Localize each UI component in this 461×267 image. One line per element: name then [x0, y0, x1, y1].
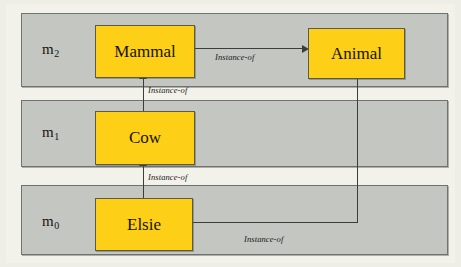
level-label-m1-text: m — [42, 124, 54, 140]
edge-line-elsie-to-animal-vertical — [357, 79, 358, 223]
level-label-m0-subscript: 0 — [54, 220, 59, 231]
level-label-m1: m1 — [42, 124, 59, 141]
edge-label-cow-to-mammal: Instance-of — [148, 85, 187, 95]
diagram-canvas: m2 m1 m0 Instance-of Instance-of Instanc… — [0, 0, 461, 267]
edge-label-elsie-to-cow: Instance-of — [148, 172, 187, 182]
edge-line-cow-to-mammal — [143, 78, 144, 112]
node-animal-label: Animal — [331, 44, 382, 64]
node-mammal-label: Mammal — [114, 42, 175, 62]
level-label-m1-subscript: 1 — [54, 131, 59, 142]
edge-line-mammal-to-animal — [195, 48, 305, 49]
node-mammal[interactable]: Mammal — [95, 25, 195, 78]
node-elsie[interactable]: Elsie — [95, 198, 193, 251]
node-animal[interactable]: Animal — [308, 28, 405, 79]
level-band-m1 — [21, 100, 448, 167]
level-label-m0-text: m — [42, 213, 54, 229]
level-label-m2-text: m — [42, 41, 54, 57]
level-label-m2-subscript: 2 — [54, 48, 59, 59]
node-cow-label: Cow — [129, 128, 161, 148]
edge-label-elsie-to-animal: Instance-of — [244, 234, 283, 244]
level-label-m0: m0 — [42, 213, 59, 230]
node-cow[interactable]: Cow — [95, 111, 195, 165]
edge-label-mammal-to-animal: Instance-of — [215, 52, 254, 62]
level-label-m2: m2 — [42, 41, 59, 58]
level-band-m0 — [21, 185, 448, 255]
node-elsie-label: Elsie — [127, 215, 161, 235]
edge-line-elsie-to-cow — [143, 165, 144, 200]
edge-line-elsie-to-animal-horizontal — [193, 222, 358, 223]
